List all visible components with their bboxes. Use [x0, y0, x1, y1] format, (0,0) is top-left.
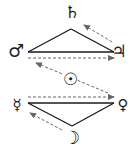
upper-triangle [28, 29, 114, 52]
jupiter-icon: ♃ [111, 43, 126, 60]
venus-icon: ♀ [118, 98, 129, 113]
arrow-jupiter-to-saturn [84, 25, 112, 42]
mars-icon: ♂ [8, 42, 24, 60]
sun-icon: ☉ [63, 71, 78, 88]
edge-mars-saturn [28, 29, 71, 52]
arrow-moon-to-mercury [30, 113, 62, 130]
edge-mercury-moon [28, 103, 72, 126]
lower-triangle [28, 103, 114, 126]
mercury-icon: ☿ [12, 98, 21, 113]
moon-icon: ☽ [64, 129, 80, 147]
saturn-icon: ♄ [64, 4, 79, 21]
edge-saturn-jupiter [71, 29, 114, 52]
edge-moon-venus [72, 103, 114, 126]
